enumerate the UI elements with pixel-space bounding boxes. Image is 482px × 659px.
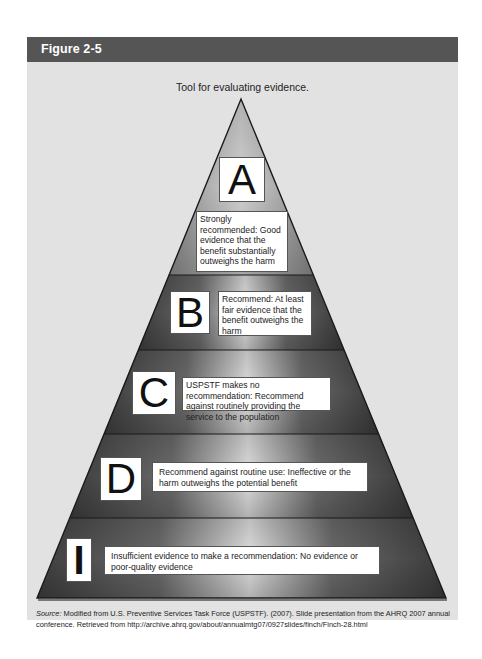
grade-i-description: Insufficient evidence to make a recommen… <box>104 546 380 575</box>
grade-b-letter-box: B <box>170 291 210 334</box>
grade-d-letter-box: D <box>100 457 142 501</box>
grade-description-text: Insufficient evidence to make a recommen… <box>111 551 358 572</box>
source-label: Source: <box>36 609 61 618</box>
grade-letter: B <box>176 292 204 334</box>
grade-description-text: Recommend against routine use: Ineffecti… <box>159 467 351 488</box>
grade-letter: A <box>228 159 256 201</box>
grade-d-description: Recommend against routine use: Ineffecti… <box>152 462 368 492</box>
grade-c-letter-box: C <box>132 371 176 415</box>
grade-c-description: USPSTF makes no recommendation: Recommen… <box>182 377 331 411</box>
grade-a-description: Strongly recommended: Good evidence that… <box>196 211 288 272</box>
grade-i-letter-box: I <box>66 538 92 582</box>
grade-letter: I <box>73 540 84 580</box>
source-text: Modified from U.S. Preventive Services T… <box>36 609 450 629</box>
grade-description-text: Recommend: At least fair evidence that t… <box>222 294 304 336</box>
grade-a-letter-box: A <box>219 157 265 202</box>
source-citation: Source: Modified from U.S. Preventive Se… <box>36 609 456 630</box>
grade-letter: C <box>139 372 169 414</box>
grade-letter: D <box>106 458 136 500</box>
grade-b-description: Recommend: At least fair evidence that t… <box>218 291 312 336</box>
grade-description-text: Strongly recommended: Good evidence that… <box>200 214 281 266</box>
